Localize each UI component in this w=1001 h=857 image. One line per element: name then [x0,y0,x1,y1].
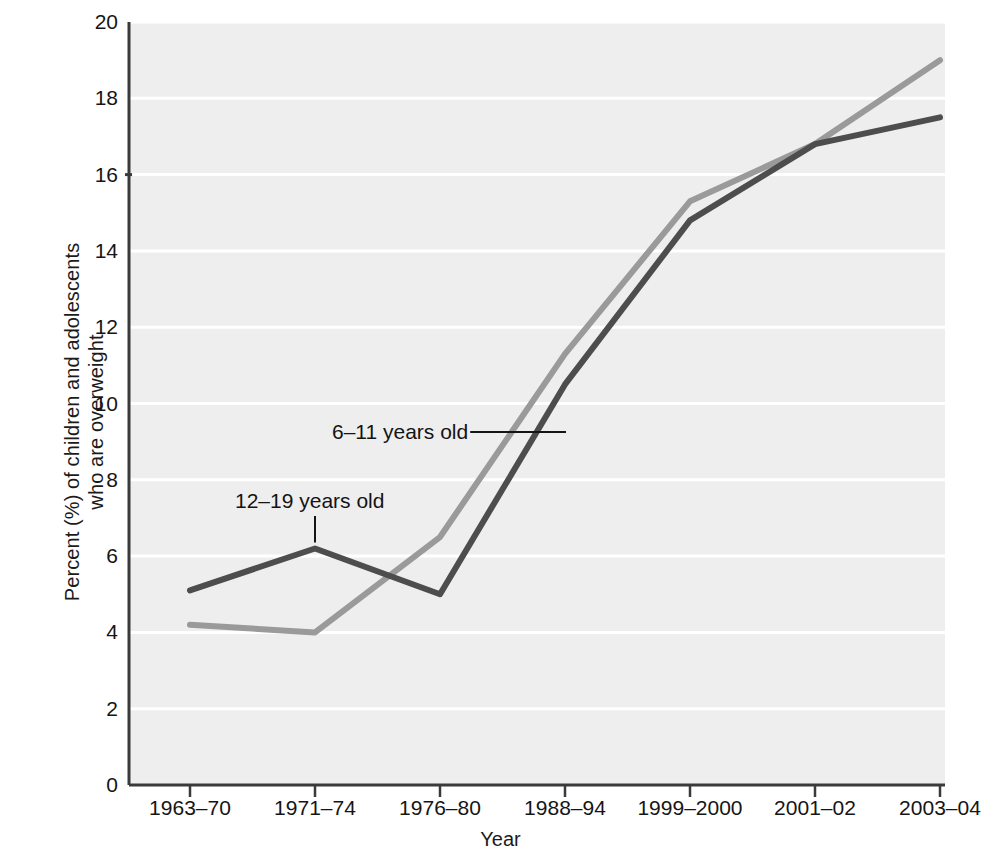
x-axis-tick-label: 2003–04 [899,796,981,820]
x-axis-tick-labels: 1963–701971–741976–801988–941999–2000200… [0,0,1001,857]
x-axis-tick-label: 1999–2000 [637,796,742,820]
chart-figure: Percent (%) of children and adolescents … [0,0,1001,857]
x-axis-tick-label: 2001–02 [774,796,856,820]
x-axis-tick-label: 1976–80 [399,796,481,820]
x-axis-tick-label: 1963–70 [149,796,231,820]
x-axis-tick-label: 1988–94 [524,796,606,820]
x-axis-tick-label: 1971–74 [274,796,356,820]
x-axis-title: Year [0,828,1001,851]
